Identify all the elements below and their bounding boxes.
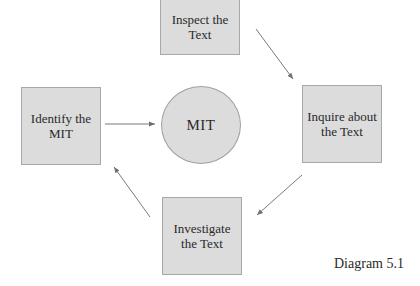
arrow-investigate-to-identify xyxy=(114,167,150,217)
node-label-line1: Investigate xyxy=(173,221,230,236)
node-label-line1: Identify the xyxy=(31,111,91,126)
node-inspect-the-text: Inspect the Text xyxy=(160,0,240,55)
node-label-line1: Inquire about xyxy=(307,109,377,124)
arrow-inquire-to-investigate xyxy=(257,175,302,215)
node-label: MIT xyxy=(187,117,216,134)
node-label-line1: Inspect the xyxy=(172,12,229,27)
arrow-inspect-to-inquire xyxy=(256,29,293,79)
node-mit-center: MIT xyxy=(161,86,241,164)
node-investigate-the-text: Investigate the Text xyxy=(162,197,242,275)
node-label-line2: MIT xyxy=(31,126,91,141)
node-label-line2: the Text xyxy=(307,124,377,139)
node-identify-the-mit: Identify the MIT xyxy=(21,87,101,165)
diagram-caption: Diagram 5.1 xyxy=(334,256,404,272)
node-inquire-about-the-text: Inquire about the Text xyxy=(302,85,382,163)
node-label-line2: the Text xyxy=(173,236,230,251)
node-label-line2: Text xyxy=(172,27,229,42)
